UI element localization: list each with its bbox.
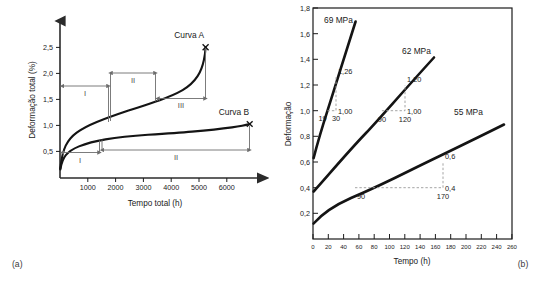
- panel-b-ann62-x2: 120: [399, 115, 411, 124]
- panel-b-ann62-x1: 90: [378, 115, 386, 124]
- panel-a-curve-a-label: Curva A: [174, 30, 204, 40]
- panel-b-xtick-10: 200: [461, 244, 472, 250]
- panel-a-stage-label-2: II: [131, 76, 135, 85]
- creep-curves-figure: 0,5 1,0 1,5 2,0 2,5 1000 2000 3000 4000 …: [0, 0, 542, 282]
- panel-b-ytick-7: 1,6: [300, 30, 310, 39]
- panel-b-slope-annotation-55: 0,6 0,4 90 170: [355, 152, 455, 202]
- panel-a-ytick-0: 0,5: [43, 147, 53, 156]
- panel-b-y-axis-title: Deformação: [284, 101, 293, 146]
- panel-b-ann69-y1: 1,00: [338, 107, 352, 116]
- panel-b-xtick-8: 160: [430, 244, 441, 250]
- panel-b-xtick-11: 220: [476, 244, 487, 250]
- panel-b-xtick-6: 120: [400, 244, 411, 250]
- panel-b-ytick-8: 1,8: [300, 4, 310, 13]
- panel-a-stageb-label-2: II: [174, 153, 178, 162]
- panel-b-ytick-3: 0,8: [300, 132, 310, 141]
- panel-a-y-axis-title: Deformação total (%): [28, 61, 37, 139]
- panel-a-tag: (a): [12, 259, 23, 269]
- panel-a-chart: 0,5 1,0 1,5 2,0 2,5 1000 2000 3000 4000 …: [0, 0, 271, 282]
- panel-b-x-ticks: [313, 234, 512, 239]
- panel-a-ytick-1: 1,0: [43, 121, 53, 130]
- panel-a-xtick-3: 4000: [163, 183, 179, 192]
- panel-b-xtick-12: 240: [492, 244, 503, 250]
- panel-b-xtick-1: 20: [325, 244, 332, 250]
- panel-b-x-axis-title: Tempo (h): [394, 257, 431, 266]
- panel-b-ann55-y2: 0,6: [445, 152, 455, 161]
- panel-b-xtick-0: 0: [311, 244, 315, 250]
- panel-a-x-axis-title: Tempo total (h): [128, 199, 183, 208]
- panel-b-ytick-4: 1,0: [300, 107, 310, 116]
- panel-a-stage-label-3: III: [178, 101, 184, 110]
- panel-b-label-69: 69 MPa: [324, 15, 353, 25]
- panel-b-slope-annotation-62: 1,20 1,00 90 120: [378, 75, 422, 125]
- panel-a-ytick-4: 2,5: [43, 43, 53, 52]
- panel-b-ann69-x1: 19: [318, 114, 326, 123]
- panel-b-xtick-3: 60: [356, 244, 363, 250]
- panel-b-ann69-x2: 30: [332, 114, 340, 123]
- panel-a-stage-label-1: I: [84, 89, 86, 98]
- panel-b-slope-annotation-69: 1,26 1,00 19 30: [318, 67, 352, 124]
- panel-b-xtick-13: 260: [507, 244, 518, 250]
- panel-b-xtick-5: 100: [384, 244, 395, 250]
- panel-a-xtick-5: 6000: [219, 183, 235, 192]
- panel-b-curve-55: [314, 125, 504, 224]
- panel-a-xtick-1: 2000: [108, 183, 124, 192]
- panel-a-xtick-0: 1000: [80, 183, 96, 192]
- panel-b-xtick-7: 140: [415, 244, 426, 250]
- panel-a-xtick-4: 5000: [191, 183, 207, 192]
- panel-a-stageb-bracket-II: II: [102, 126, 250, 163]
- panel-b-curve-69: [314, 22, 356, 159]
- panel-b-ytick-2: 0,6: [300, 158, 310, 167]
- panel-b-chart: 0,2 0,4 0,6 0,8 1,0 1,2 1,4 1,6 1,8 0 20…: [271, 0, 542, 282]
- panel-a-curve-b-label: Curva B: [219, 107, 250, 117]
- panel-b-ytick-6: 1,4: [300, 55, 310, 64]
- panel-b-plot-frame: [313, 8, 512, 239]
- panel-b-ann55-x1: 90: [357, 192, 365, 201]
- panel-b-ytick-1: 0,4: [300, 184, 310, 193]
- panel-a-ytick-3: 2,0: [43, 69, 53, 78]
- panel-b-ann55-x2: 170: [437, 192, 449, 201]
- panel-b-ytick-5: 1,2: [300, 81, 310, 90]
- panel-a-xtick-2: 3000: [135, 183, 151, 192]
- panel-a-ytick-2: 1,5: [43, 95, 53, 104]
- panel-b-xtick-9: 180: [446, 244, 457, 250]
- panel-b-label-62: 62 MPa: [402, 46, 431, 56]
- panel-a-stageb-label-1: I: [79, 156, 81, 165]
- panel-a-stage-bracket-I: I: [62, 86, 109, 122]
- panel-b-ann69-y2: 1,26: [338, 67, 352, 76]
- panel-b-ann62-y2: 1,20: [407, 75, 421, 84]
- panel-a-stage-bracket-III: III: [158, 48, 206, 110]
- panel-b-label-55: 55 MPa: [454, 107, 483, 117]
- panel-b-tag: (b): [518, 259, 529, 269]
- panel-a-curve-b: [60, 124, 249, 170]
- panel-b-xtick-4: 80: [371, 244, 378, 250]
- panel-b-y-ticks: [313, 8, 318, 213]
- panel-b-ytick-0: 0,2: [300, 209, 310, 218]
- panel-b-xtick-2: 40: [340, 244, 347, 250]
